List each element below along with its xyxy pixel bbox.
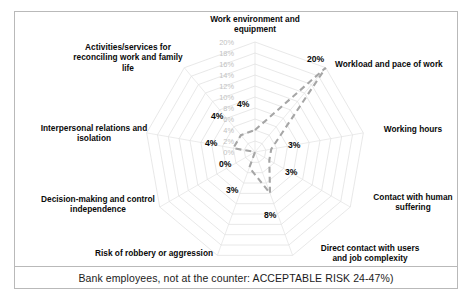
chart-caption-box: Bank employees, not at the counter: ACCE…	[14, 267, 458, 289]
axis-title-decision-making-and-control-independence: Decision-making and control independence	[22, 194, 174, 215]
axis-title-activities-services-reconciling-work-family-life: Activities/services for reconciling work…	[53, 42, 203, 73]
axis-title-line: equipment	[180, 24, 330, 34]
value-label-workload: 20%	[307, 54, 324, 64]
radar-chart-figure: 20% 18% 16% 14% 12% 10% 8% 6% 4% 2% 0% W…	[0, 0, 473, 304]
axis-title-contact-with-human-suffering: Contact with human suffering	[363, 192, 463, 213]
axis-title-risk-of-robbery-or-aggression: Risk of robbery or aggression	[74, 248, 234, 258]
value-label-decision: 0%	[219, 159, 231, 169]
value-label-work-environment: 4%	[237, 99, 249, 109]
axis-title-line: Workload and pace of work	[335, 59, 459, 69]
rtick-20: 20%	[198, 38, 234, 47]
rtick-0: 0%	[198, 148, 234, 157]
axis-title-line: Direct contact with users	[297, 243, 443, 253]
axis-title-line: and job complexity	[297, 253, 443, 263]
axis-title-line: Risk of robbery or aggression	[74, 248, 234, 258]
rtick-4: 4%	[198, 126, 234, 135]
value-label-activities: 4%	[211, 111, 223, 121]
axis-title-working-hours: Working hours	[371, 124, 455, 134]
axis-title-workload-and-pace-of-work: Workload and pace of work	[335, 59, 459, 69]
value-label-human-suffering: 3%	[285, 167, 297, 177]
rtick-14: 14%	[198, 71, 234, 80]
value-label-direct-contact: 8%	[264, 210, 276, 220]
axis-title-line: suffering	[363, 202, 463, 212]
value-label-working-hours: 3%	[288, 140, 300, 150]
value-label-interpersonal: 4%	[205, 138, 217, 148]
rtick-10: 10%	[198, 93, 234, 102]
axis-title-line: life	[53, 63, 203, 73]
axis-title-line: reconciling work and family	[53, 52, 203, 62]
rtick-12: 12%	[198, 82, 234, 91]
axis-title-line: Interpersonal relations and	[20, 123, 168, 133]
axis-title-work-environment-and-equipment: Work environment and equipment	[180, 14, 330, 35]
axis-title-line: Activities/services for	[53, 42, 203, 52]
axis-title-direct-contact-with-users-and-job-complexity: Direct contact with users and job comple…	[297, 243, 443, 264]
axis-title-line: independence	[22, 204, 174, 214]
chart-caption-text: Bank employees, not at the counter: ACCE…	[78, 272, 393, 284]
rtick-18: 18%	[198, 49, 234, 58]
value-label-robbery: 3%	[226, 185, 238, 195]
rtick-16: 16%	[198, 60, 234, 69]
axis-title-line: Contact with human	[363, 192, 463, 202]
axis-title-line: Decision-making and control	[22, 194, 174, 204]
axis-title-line: isolation	[20, 133, 168, 143]
axis-title-interpersonal-relations-and-isolation: Interpersonal relations and isolation	[20, 123, 168, 144]
axis-title-line: Work environment and	[180, 14, 330, 24]
axis-title-line: Working hours	[371, 124, 455, 134]
